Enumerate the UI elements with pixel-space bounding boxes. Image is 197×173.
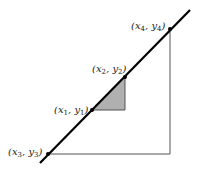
point-x1-y1	[90, 108, 94, 112]
label-x1-y1: (x1, y1)	[54, 104, 89, 117]
point-x3-y3	[46, 152, 50, 156]
main-line	[40, 10, 190, 163]
label-x2-y2: (x2, y2)	[92, 63, 127, 76]
slope-diagram: (x1, y1) (x2, y2) (x3, y3) (x4, y4)	[0, 0, 197, 173]
point-x4-y4	[168, 27, 172, 31]
label-x3-y3: (x3, y3)	[8, 146, 43, 159]
label-x4-y4: (x4, y4)	[131, 20, 166, 33]
point-x2-y2	[123, 75, 127, 79]
